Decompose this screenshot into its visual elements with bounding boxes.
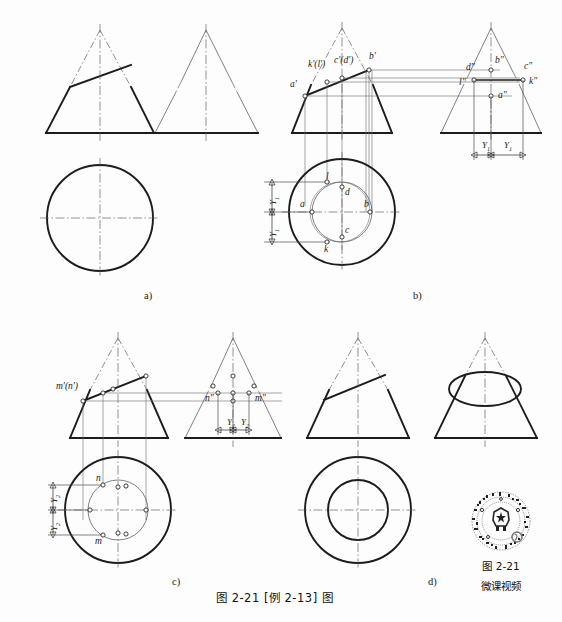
label-c-double-prime: c" bbox=[524, 62, 532, 72]
qr-caption-number: 图 2-21 bbox=[470, 558, 532, 573]
panel-a bbox=[40, 24, 258, 278]
qr-caption-text: 微课视频 bbox=[470, 578, 532, 593]
dim-y1-side-right: Y1 bbox=[504, 140, 512, 152]
dim-y2-top-lower: Y2 bbox=[49, 523, 61, 531]
panel-c-top-view bbox=[48, 450, 178, 570]
label-k-prime-l-prime: k'(l') bbox=[308, 60, 325, 70]
label-l: l bbox=[326, 172, 329, 182]
label-m-prime-n-prime: m'(n') bbox=[56, 382, 78, 392]
label-b: b bbox=[364, 200, 369, 210]
label-c-prime-d-prime: c'(d') bbox=[334, 56, 353, 66]
dim-y2-side-left: Y2 bbox=[227, 417, 235, 429]
panel-d-top-view bbox=[298, 450, 418, 570]
panel-label-b: b) bbox=[413, 290, 422, 301]
figure-caption: 图 2-21 [例 2-13] 图 bbox=[216, 589, 333, 605]
qr-code-icon[interactable] bbox=[470, 490, 532, 552]
dim-y1-top-upper: Y1 bbox=[268, 197, 280, 205]
label-b-double-prime: b" bbox=[495, 56, 504, 66]
label-m-double-prime: m" bbox=[255, 394, 266, 404]
panel-label-d: d) bbox=[428, 576, 437, 587]
label-k: k bbox=[324, 245, 328, 255]
dim-y2-top-upper: Y2 bbox=[49, 495, 61, 503]
label-m: m bbox=[95, 537, 102, 547]
label-n: n bbox=[96, 474, 101, 484]
label-c: c bbox=[345, 226, 349, 236]
panel-b-front-view bbox=[292, 22, 520, 250]
panel-c-side-view bbox=[185, 332, 281, 447]
label-a-double-prime: a" bbox=[498, 91, 507, 101]
label-k-double-prime: k" bbox=[529, 77, 537, 87]
panel-b-side-view bbox=[441, 22, 541, 160]
label-d: d bbox=[345, 188, 350, 198]
panel-b-top-view bbox=[264, 152, 402, 272]
panel-a-front-view bbox=[46, 24, 154, 141]
panel-a-top-view bbox=[40, 158, 160, 278]
panel-a-side-view bbox=[155, 24, 258, 141]
panel-label-c: c) bbox=[172, 576, 180, 587]
label-a: a bbox=[300, 200, 305, 210]
dim-y1-side-left: Y1 bbox=[482, 140, 490, 152]
panel-c-front-view bbox=[70, 332, 282, 520]
dim-y1-top-lower: Y1 bbox=[268, 229, 280, 237]
label-b-prime: b' bbox=[369, 52, 376, 62]
dim-y2-side-right: Y2 bbox=[241, 417, 249, 429]
panel-d-side-view bbox=[435, 332, 537, 447]
label-l-double-prime: l" bbox=[459, 78, 466, 88]
label-a-prime: a' bbox=[290, 80, 297, 90]
panel-label-a: a) bbox=[144, 290, 152, 301]
label-d-double-prime: d" bbox=[466, 63, 475, 73]
panel-c bbox=[48, 332, 282, 570]
label-n-double-prime: n" bbox=[205, 394, 214, 404]
panel-d-front-view bbox=[307, 332, 409, 447]
technical-drawing-figure: a' k'(l') c'(d') b' d" b" c" k" l" a" l … bbox=[0, 0, 562, 622]
